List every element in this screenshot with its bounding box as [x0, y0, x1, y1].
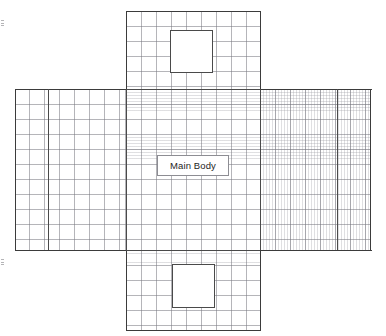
left-flap-fold-line	[48, 89, 49, 250]
outline-upper-left-edge	[15, 89, 127, 90]
outline-top-right-edge	[260, 11, 261, 90]
outline-top-left-edge	[126, 11, 127, 90]
left-panel	[15, 89, 126, 250]
right-panel-grid	[260, 89, 371, 250]
top-cutout	[170, 30, 213, 73]
left-panel-grid	[15, 89, 126, 250]
right-flap-fold-line	[337, 89, 338, 250]
outline-top-edge	[126, 11, 261, 12]
outline-bottom-right-edge	[260, 250, 261, 331]
bottom-cutout	[172, 264, 215, 308]
outline-left-edge	[15, 89, 16, 251]
outline-bottom-left-edge	[126, 250, 127, 331]
main-body-label-text: Main Body	[170, 160, 216, 171]
outline-lower-left-edge	[15, 250, 127, 251]
right-panel	[260, 89, 371, 250]
margin-mark-lower	[1, 259, 4, 266]
margin-mark-upper	[1, 20, 4, 27]
outline-upper-right-edge	[260, 89, 372, 90]
box-net-diagram: Main Body	[0, 0, 386, 336]
outline-right-edge	[370, 89, 371, 251]
main-body-label: Main Body	[157, 155, 229, 176]
fold-line-bottom	[126, 250, 260, 251]
outline-bottom-edge	[126, 330, 261, 331]
fold-line-main-right	[260, 89, 261, 250]
outline-lower-right-edge	[260, 250, 372, 251]
fold-line-top	[126, 89, 260, 90]
fold-line-main-left	[126, 89, 127, 250]
